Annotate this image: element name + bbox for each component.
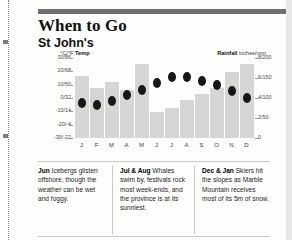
x-axis-month-label: F bbox=[95, 142, 99, 148]
y-axis-right-tick bbox=[255, 58, 259, 59]
rainfall-bar bbox=[89, 88, 104, 138]
chart-month-column[interactable]: A bbox=[179, 58, 194, 138]
rainfall-bar bbox=[104, 82, 119, 138]
chart-month-column[interactable]: S bbox=[194, 58, 209, 138]
page-gutter-dotted-line bbox=[8, 0, 9, 240]
y-axis-right-tick bbox=[255, 138, 259, 139]
x-axis-month-label: S bbox=[199, 142, 203, 148]
legend-temp-label: Temp bbox=[75, 50, 90, 56]
notes-top-rule bbox=[38, 161, 270, 162]
temperature-dot bbox=[228, 86, 236, 96]
temperature-dot bbox=[198, 76, 206, 86]
x-axis-month-label: J bbox=[80, 142, 83, 148]
y-axis-right-tick bbox=[255, 78, 259, 79]
temperature-dot bbox=[138, 85, 146, 95]
when-to-go-card: When to Go St John's °C/°F Temp Rainfall… bbox=[14, 0, 292, 240]
chart-month-column[interactable]: A bbox=[119, 58, 134, 138]
temperature-dot bbox=[78, 98, 86, 108]
gutter-marker-top bbox=[3, 40, 8, 44]
column-separator bbox=[119, 58, 120, 138]
rainfall-bar bbox=[179, 100, 194, 138]
column-separator bbox=[179, 58, 180, 138]
chart-month-column[interactable]: J bbox=[74, 58, 89, 138]
page-left-strip bbox=[0, 0, 3, 240]
temperature-dot bbox=[123, 90, 131, 100]
rainfall-bar bbox=[224, 72, 239, 138]
climate-chart: °C/°F Temp Rainfall inches/mm 30/8620/68… bbox=[38, 50, 290, 158]
column-separator bbox=[89, 58, 90, 138]
x-axis-month-label: A bbox=[124, 142, 128, 148]
y-axis-right-tick-label: 4/100 bbox=[258, 95, 272, 100]
column-separator bbox=[134, 58, 135, 138]
column-separator bbox=[194, 58, 195, 138]
chart-month-column[interactable]: F bbox=[89, 58, 104, 138]
rainfall-bar bbox=[149, 112, 164, 138]
y-axis-left-tick bbox=[69, 58, 73, 59]
column-separator bbox=[209, 58, 210, 138]
page-right-edge bbox=[286, 0, 292, 240]
temperature-dot bbox=[153, 78, 161, 88]
chart-month-column[interactable]: M bbox=[134, 58, 149, 138]
column-separator bbox=[104, 58, 105, 138]
x-axis-month-label: A bbox=[184, 142, 188, 148]
season-note: Jul & Aug Whales swim by, festivals rock… bbox=[112, 166, 194, 234]
y-axis-right-tick bbox=[255, 118, 259, 119]
y-axis-left-tick bbox=[69, 125, 73, 126]
chart-plot-area: 30/8620/6810/500/32-10/14-20/-4-30/-228/… bbox=[74, 58, 254, 138]
x-axis-month-label: D bbox=[244, 142, 248, 148]
temperature-dot bbox=[183, 72, 191, 82]
season-note: Dec & Jan Skiers hit the slopes as Marbl… bbox=[194, 166, 276, 234]
x-axis-month-label: J bbox=[155, 142, 158, 148]
column-separator bbox=[239, 58, 240, 138]
chart-month-column[interactable]: J bbox=[164, 58, 179, 138]
season-note: Jun Icebergs glisten offshore, though th… bbox=[38, 166, 112, 234]
rainfall-bar bbox=[194, 94, 209, 138]
x-axis-month-label: M bbox=[109, 142, 114, 148]
legend-rain-label: Rainfall bbox=[217, 50, 237, 56]
y-axis-right-tick-label: 6/150 bbox=[258, 75, 272, 80]
chart-month-column[interactable]: M bbox=[104, 58, 119, 138]
temperature-dot bbox=[93, 100, 101, 110]
column-separator bbox=[149, 58, 150, 138]
season-note-lead: Dec & Jan bbox=[202, 167, 234, 174]
y-axis-left-tick bbox=[69, 138, 73, 139]
x-axis-month-label: M bbox=[139, 142, 144, 148]
rainfall-bar bbox=[134, 64, 149, 138]
column-separator bbox=[74, 58, 75, 138]
y-axis-right-tick-label: 8/200 bbox=[258, 55, 272, 60]
temperature-dot bbox=[108, 96, 116, 106]
y-axis-right-tick bbox=[255, 98, 259, 99]
season-note-lead: Jun bbox=[38, 167, 50, 174]
rainfall-bar bbox=[209, 88, 224, 138]
column-separator bbox=[224, 58, 225, 138]
temperature-dot bbox=[213, 80, 221, 90]
chart-month-column[interactable]: O bbox=[209, 58, 224, 138]
x-axis-month-label: O bbox=[214, 142, 219, 148]
temperature-dot bbox=[168, 72, 176, 82]
header-rule bbox=[38, 9, 290, 14]
chart-month-column[interactable]: N bbox=[224, 58, 239, 138]
y-axis-left-tick bbox=[69, 98, 73, 99]
column-separator bbox=[164, 58, 165, 138]
card-bottom-rule bbox=[38, 236, 270, 237]
y-axis-left-tick bbox=[69, 85, 73, 86]
x-axis-month-label: J bbox=[170, 142, 173, 148]
gutter-marker-bottom bbox=[3, 134, 8, 138]
y-axis-right-tick-label: 2/50 bbox=[258, 115, 269, 120]
chart-month-column[interactable]: D bbox=[239, 58, 254, 138]
page-title: When to Go bbox=[38, 16, 127, 36]
y-axis-left-tick bbox=[69, 71, 73, 72]
chart-month-column[interactable]: J bbox=[149, 58, 164, 138]
x-axis-month-label: N bbox=[229, 142, 233, 148]
rainfall-bar bbox=[164, 108, 179, 138]
temperature-dot bbox=[243, 93, 251, 103]
season-note-lead: Jul & Aug bbox=[120, 167, 151, 174]
y-axis-left-tick bbox=[69, 111, 73, 112]
notes-row: Jun Icebergs glisten offshore, though th… bbox=[38, 166, 276, 234]
page-subtitle: St John's bbox=[38, 36, 94, 50]
